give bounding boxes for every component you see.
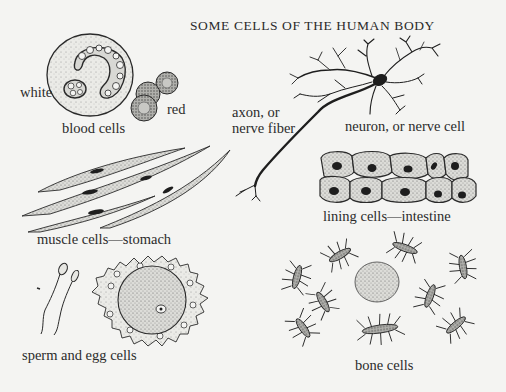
cell-illustration: SOME CELLS OF THE HUMAN BODY (0, 0, 506, 392)
bone-cells-icon (279, 229, 479, 348)
label-neuron: neuron, or nerve cell (345, 118, 465, 134)
label-muscle-cells: muscle cells—stomach (37, 231, 171, 247)
muscle-cells-icon (22, 146, 230, 232)
label-bone-cells: bone cells (355, 357, 413, 373)
label-blood-cells: blood cells (62, 120, 125, 136)
illustration-drawing (0, 0, 506, 392)
label-red-blood-cell: red (167, 101, 186, 117)
label-lining-cells: lining cells—intestine (323, 208, 451, 224)
label-white-blood-cell: white (20, 84, 52, 100)
label-axon-line2: nerve fiber (232, 120, 295, 136)
egg-cell-icon (92, 256, 208, 346)
label-sperm-egg-cells: sperm and egg cells (22, 347, 137, 363)
lining-cells-icon (320, 152, 476, 203)
sperm-cells-icon (37, 262, 80, 335)
white-blood-cell-icon (47, 34, 133, 116)
label-axon-line1: axon, or (232, 104, 280, 120)
